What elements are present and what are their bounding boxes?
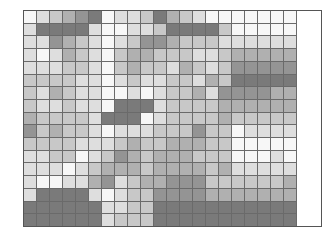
heatmap-cell	[50, 125, 62, 137]
heatmap-cell	[245, 214, 257, 226]
heatmap-cell	[63, 24, 75, 36]
heatmap-cell	[141, 75, 153, 87]
heatmap-cell	[128, 163, 140, 175]
heatmap-cell	[154, 214, 166, 226]
heatmap-cell	[193, 11, 205, 23]
heatmap-cell	[232, 189, 244, 201]
heatmap-cell	[50, 202, 62, 214]
heatmap-cell	[284, 62, 296, 74]
heatmap-cell	[206, 113, 218, 125]
heatmap-cell	[219, 214, 231, 226]
heatmap-cell	[284, 75, 296, 87]
heatmap-cell	[219, 100, 231, 112]
heatmap-cell	[245, 75, 257, 87]
heatmap-cell	[37, 176, 49, 188]
heatmap-cell	[245, 113, 257, 125]
heatmap-cell	[63, 151, 75, 163]
heatmap-cell	[167, 87, 179, 99]
heatmap-frame	[23, 10, 322, 227]
heatmap-cell	[76, 125, 88, 137]
heatmap-cell	[89, 151, 101, 163]
heatmap-cell	[193, 125, 205, 137]
heatmap-cell	[89, 62, 101, 74]
heatmap-cell	[245, 138, 257, 150]
heatmap-cell	[271, 125, 283, 137]
heatmap-cell	[167, 75, 179, 87]
heatmap-cell	[258, 202, 270, 214]
heatmap-cell	[102, 36, 114, 48]
heatmap-cell	[193, 202, 205, 214]
heatmap-cell	[128, 151, 140, 163]
heatmap-cell	[89, 100, 101, 112]
heatmap-cell	[141, 49, 153, 61]
heatmap-cell	[102, 176, 114, 188]
heatmap-cell	[63, 11, 75, 23]
heatmap-cell	[89, 125, 101, 137]
heatmap-cell	[232, 125, 244, 137]
heatmap-cell	[76, 151, 88, 163]
heatmap-cell	[219, 138, 231, 150]
heatmap-cell	[115, 113, 127, 125]
heatmap-cell	[180, 62, 192, 74]
heatmap-cell	[115, 176, 127, 188]
heatmap-cell	[271, 11, 283, 23]
heatmap-cell	[258, 87, 270, 99]
heatmap-cell	[245, 49, 257, 61]
heatmap-cell	[63, 202, 75, 214]
heatmap-cell	[141, 62, 153, 74]
heatmap-cell	[115, 75, 127, 87]
heatmap-cell	[154, 138, 166, 150]
heatmap-cell	[206, 87, 218, 99]
heatmap-cell	[206, 202, 218, 214]
heatmap-cell	[193, 49, 205, 61]
heatmap-cell	[271, 100, 283, 112]
heatmap-cell	[154, 62, 166, 74]
heatmap-cell	[89, 176, 101, 188]
heatmap-cell	[219, 87, 231, 99]
heatmap-cell	[154, 113, 166, 125]
heatmap-grid	[24, 11, 297, 226]
heatmap-cell	[128, 176, 140, 188]
heatmap-cell	[128, 87, 140, 99]
heatmap-cell	[258, 49, 270, 61]
heatmap-cell	[76, 100, 88, 112]
heatmap-cell	[232, 176, 244, 188]
heatmap-cell	[141, 24, 153, 36]
heatmap-cell	[24, 100, 36, 112]
heatmap-cell	[141, 214, 153, 226]
heatmap-cell	[76, 49, 88, 61]
heatmap-cell	[193, 189, 205, 201]
heatmap-cell	[245, 151, 257, 163]
heatmap-cell	[115, 24, 127, 36]
heatmap-cell	[141, 138, 153, 150]
heatmap-cell	[128, 202, 140, 214]
heatmap-cell	[258, 36, 270, 48]
heatmap-cell	[193, 24, 205, 36]
heatmap-cell	[167, 49, 179, 61]
heatmap-cell	[89, 202, 101, 214]
heatmap-cell	[232, 75, 244, 87]
heatmap-cell	[50, 11, 62, 23]
heatmap-cell	[37, 163, 49, 175]
heatmap-cell	[115, 100, 127, 112]
heatmap-cell	[206, 100, 218, 112]
heatmap-cell	[193, 138, 205, 150]
heatmap-cell	[206, 163, 218, 175]
heatmap-cell	[219, 113, 231, 125]
heatmap-cell	[206, 151, 218, 163]
heatmap-cell	[24, 11, 36, 23]
heatmap-cell	[50, 163, 62, 175]
heatmap-cell	[180, 11, 192, 23]
heatmap-cell	[180, 36, 192, 48]
heatmap-cell	[180, 138, 192, 150]
heatmap-cell	[271, 163, 283, 175]
heatmap-cell	[167, 24, 179, 36]
heatmap-cell	[232, 151, 244, 163]
heatmap-cell	[76, 11, 88, 23]
heatmap-cell	[284, 87, 296, 99]
heatmap-cell	[76, 176, 88, 188]
heatmap-cell	[102, 24, 114, 36]
heatmap-cell	[63, 87, 75, 99]
heatmap-cell	[37, 11, 49, 23]
heatmap-cell	[232, 214, 244, 226]
